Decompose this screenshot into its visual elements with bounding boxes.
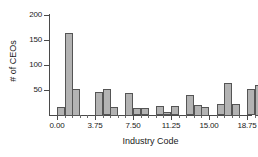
y-tick-mark <box>44 40 50 41</box>
histogram-bar <box>201 107 209 116</box>
histogram-bar <box>224 83 232 116</box>
histogram-bar <box>171 106 179 115</box>
x-minor-tick-mark <box>148 115 149 118</box>
histogram-bar <box>133 108 141 115</box>
x-minor-tick-mark <box>163 115 164 118</box>
histogram-bar <box>163 112 171 115</box>
x-minor-tick-mark <box>103 115 104 118</box>
x-tick-mark <box>209 115 210 120</box>
x-minor-tick-mark <box>80 115 81 118</box>
x-tick-label: 7.50 <box>113 121 153 130</box>
y-tick-label: 200 <box>16 11 42 19</box>
histogram-bar <box>125 93 133 116</box>
plot-area: 50100150200 0.003.757.5011.2515.0018.75 … <box>0 0 258 157</box>
y-axis-title: # of CEOs <box>8 31 18 91</box>
x-minor-tick-mark <box>118 115 119 118</box>
y-tick-mark <box>44 90 50 91</box>
x-tick-mark <box>171 115 172 120</box>
x-minor-tick-mark <box>141 115 142 118</box>
x-tick-label: 3.75 <box>75 121 115 130</box>
x-axis-title: Industry Code <box>49 136 252 146</box>
x-minor-tick-mark <box>156 115 157 118</box>
histogram-bar <box>95 92 103 116</box>
x-tick-label: 15.00 <box>189 121 229 130</box>
y-tick-label: 100 <box>16 61 42 69</box>
x-minor-tick-mark <box>186 115 187 118</box>
x-tick-mark <box>247 115 248 120</box>
x-minor-tick-mark <box>217 115 218 118</box>
x-tick-label: 18.75 <box>227 121 258 130</box>
histogram-bar <box>247 89 255 115</box>
y-tick-label: 150 <box>16 36 42 44</box>
y-tick-label: 50 <box>16 86 42 94</box>
histogram-bar <box>232 104 240 116</box>
x-minor-tick-mark <box>87 115 88 118</box>
x-minor-tick-mark <box>179 115 180 118</box>
histogram-bar <box>186 95 194 115</box>
histogram-chart: 50100150200 0.003.757.5011.2515.0018.75 … <box>0 0 258 157</box>
histogram-bar <box>110 107 118 116</box>
x-tick-label: 11.25 <box>151 121 191 130</box>
histogram-bar <box>57 107 65 116</box>
histogram-bar <box>141 108 149 115</box>
y-tick-mark <box>44 65 50 66</box>
histogram-bar <box>72 89 80 116</box>
x-tick-label: 0.00 <box>37 121 77 130</box>
histogram-bar <box>255 85 258 116</box>
y-tick-mark <box>44 15 50 16</box>
x-tick-mark <box>133 115 134 120</box>
